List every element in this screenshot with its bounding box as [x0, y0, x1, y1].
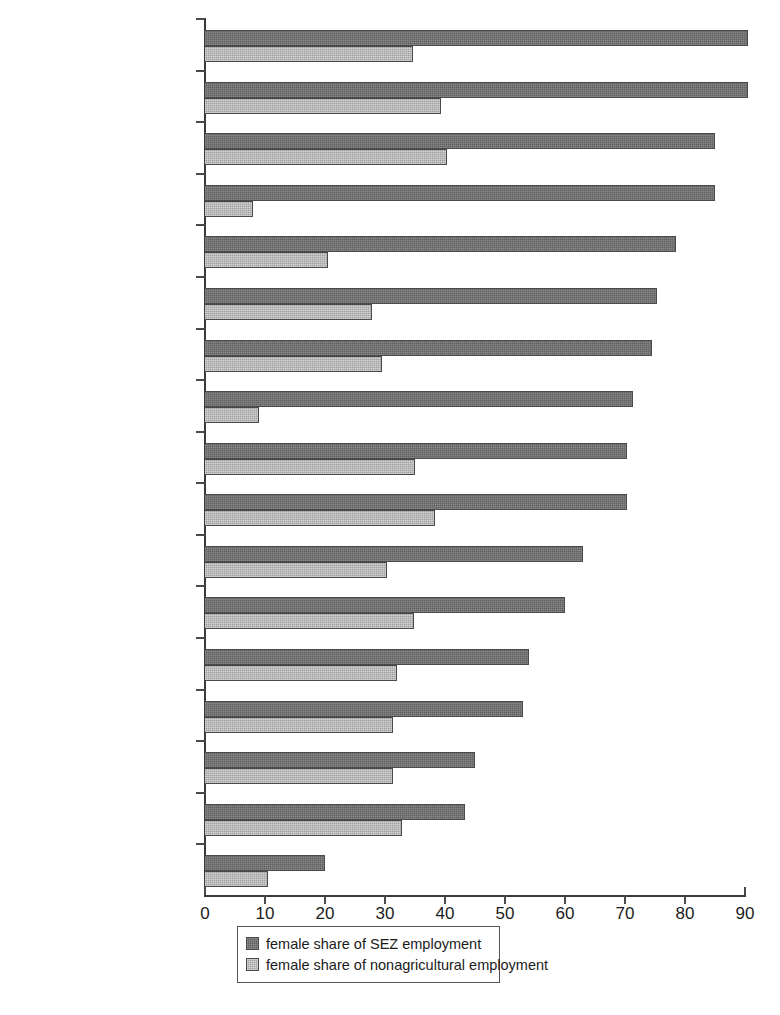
y-axis-tick: [196, 482, 205, 484]
x-axis-tick: [444, 895, 446, 904]
x-axis-tick-label: 60: [540, 904, 590, 924]
x-axis-tick: [384, 895, 386, 904]
y-axis-tick: [196, 637, 205, 639]
bar-nonagricultural-employment: [205, 201, 253, 217]
x-axis-tick: [324, 895, 326, 904]
bar-sez-employment: [205, 855, 325, 871]
y-axis-tick: [196, 121, 205, 123]
y-axis-tick: [196, 843, 205, 845]
x-axis-tick-label: 50: [480, 904, 530, 924]
x-axis-tick-label: 10: [240, 904, 290, 924]
chart-row: Bangaladesh: [205, 173, 745, 225]
bar-sez-employment: [205, 701, 523, 717]
bar-nonagricultural-employment: [205, 820, 402, 836]
x-axis-tick-label: 70: [600, 904, 650, 924]
y-axis-tick: [196, 740, 205, 742]
legend-item-nonagricultural: female share of nonagricultural employme…: [246, 954, 491, 975]
x-axis-tick-label: 90: [720, 904, 770, 924]
chart-row: Madagascar: [205, 379, 745, 431]
x-axis-tick-label: 80: [660, 904, 710, 924]
x-axis-tick: [744, 887, 746, 895]
chart-row: Dominican Republic: [205, 689, 745, 741]
bar-nonagricultural-employment: [205, 252, 328, 268]
bar-sez-employment: [205, 340, 652, 356]
legend-label-nonagricultural: female share of nonagricultural employme…: [266, 957, 548, 973]
x-axis-line: [204, 895, 746, 897]
x-axis-tick: [264, 895, 266, 904]
bar-nonagricultural-employment: [205, 613, 414, 629]
bar-sez-employment: [205, 752, 475, 768]
x-axis-tick: [564, 895, 566, 904]
bar-sez-employment: [205, 443, 627, 459]
y-axis-tick: [196, 689, 205, 691]
x-axis-tick-label: 30: [360, 904, 410, 924]
plot-area: NicaraguaJamaicaEl SalvadorBangaladeshSr…: [205, 18, 745, 895]
bar-sez-employment: [205, 185, 715, 201]
bar-sez-employment: [205, 546, 583, 562]
legend-label-sez: female share of SEZ employment: [266, 936, 481, 952]
horizontal-bar-chart: NicaraguaJamaicaEl SalvadorBangaladeshSr…: [0, 0, 780, 1015]
x-axis-tick-label: 40: [420, 904, 470, 924]
bar-sez-employment: [205, 30, 748, 46]
bar-sez-employment: [205, 236, 676, 252]
bar-nonagricultural-employment: [205, 768, 393, 784]
legend-item-sez: female share of SEZ employment: [246, 933, 491, 954]
x-axis-tick: [684, 895, 686, 904]
light-gray-swatch-icon: [246, 958, 259, 971]
bar-sez-employment: [205, 133, 715, 149]
bar-nonagricultural-employment: [205, 459, 415, 475]
bar-sez-employment: [205, 597, 565, 613]
x-axis-tick-label: 20: [300, 904, 350, 924]
y-axis-tick: [196, 379, 205, 381]
chart-row: Macedonia: [205, 740, 745, 792]
bar-sez-employment: [205, 288, 657, 304]
bar-nonagricultural-employment: [205, 717, 393, 733]
chart-row: Sri Lanka: [205, 224, 745, 276]
bar-nonagricultural-employment: [205, 562, 387, 578]
y-axis-tick: [196, 173, 205, 175]
bar-sez-employment: [205, 494, 627, 510]
y-axis-tick: [196, 792, 205, 794]
y-axis-tick: [196, 276, 205, 278]
chart-row: Belize: [205, 792, 745, 844]
bar-sez-employment: [205, 82, 748, 98]
bar-sez-employment: [205, 649, 529, 665]
chart-legend: female share of SEZ employment female sh…: [237, 926, 500, 983]
y-axis-tick: [196, 70, 205, 72]
x-axis-tick-label: 0: [180, 904, 230, 924]
x-axis-tick: [504, 895, 506, 904]
chart-row: Nicaragua: [205, 18, 745, 70]
y-axis-tick: [196, 328, 205, 330]
chart-row: Malaysia: [205, 637, 745, 689]
bar-nonagricultural-employment: [205, 149, 447, 165]
x-axis-tick: [624, 895, 626, 904]
y-axis-tick: [196, 534, 205, 536]
y-axis-tick: [196, 431, 205, 433]
bar-nonagricultural-employment: [205, 665, 397, 681]
chart-row: Honduras: [205, 276, 745, 328]
bar-nonagricultural-employment: [205, 98, 441, 114]
bar-nonagricultural-employment: [205, 46, 413, 62]
bar-sez-employment: [205, 391, 633, 407]
chart-row: Panama: [205, 431, 745, 483]
bar-nonagricultural-employment: [205, 304, 372, 320]
chart-row: Mexico: [205, 585, 745, 637]
chart-row: Morocco: [205, 843, 745, 895]
bar-nonagricultural-employment: [205, 407, 259, 423]
chart-row: Korea, Republic of: [205, 482, 745, 534]
chart-row: Philippines: [205, 328, 745, 380]
y-axis-tick: [196, 224, 205, 226]
dark-gray-swatch-icon: [246, 937, 259, 950]
bar-nonagricultural-employment: [205, 871, 268, 887]
y-axis-tick: [196, 585, 205, 587]
chart-row: Mauritius: [205, 534, 745, 586]
chart-row: El Salvador: [205, 121, 745, 173]
bar-nonagricultural-employment: [205, 356, 382, 372]
x-axis-tick: [204, 887, 206, 895]
y-axis-tick: [196, 18, 205, 20]
bar-nonagricultural-employment: [205, 510, 435, 526]
bar-sez-employment: [205, 804, 465, 820]
chart-row: Jamaica: [205, 70, 745, 122]
